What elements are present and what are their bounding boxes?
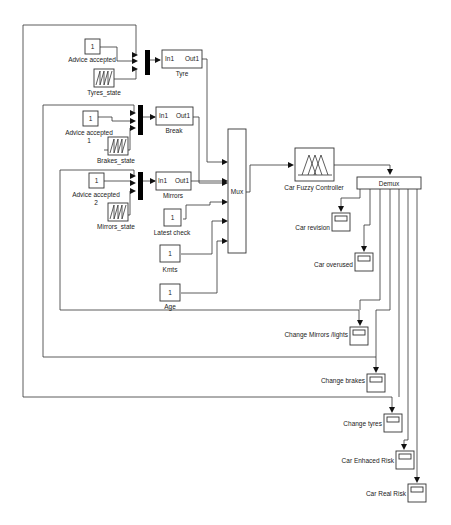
- svg-text:Out1: Out1: [175, 177, 189, 184]
- block-label: Change Mirrors /lights: [284, 331, 348, 339]
- block-label: Age: [164, 303, 176, 311]
- arrow-icon: [130, 125, 136, 131]
- constant-age[interactable]: 1 Age: [160, 284, 180, 311]
- arrow-icon: [130, 173, 136, 179]
- arrow-icon: [132, 66, 138, 72]
- svg-text:1: 1: [168, 289, 172, 296]
- signal-tyres-state[interactable]: Tyres_state: [87, 69, 121, 97]
- wire-demux-revision: [341, 189, 360, 210]
- svg-text:Out1: Out1: [185, 55, 199, 62]
- arrow-icon: [132, 58, 138, 64]
- signal-mirrors-state[interactable]: Mirrors_state: [97, 203, 135, 231]
- arrow-icon: [387, 169, 393, 175]
- arrow-icon: [373, 367, 379, 373]
- constant-kmts[interactable]: 1 Kmts: [160, 245, 180, 273]
- bus-creator-mirrors[interactable]: [138, 172, 143, 200]
- arrow-icon: [414, 477, 420, 483]
- arrow-icon: [130, 188, 136, 194]
- constant-latest-check[interactable]: 1 Latest check: [154, 209, 191, 236]
- block-label: Car Fuzzy Controller: [284, 184, 344, 192]
- demux-block[interactable]: Demux: [357, 177, 421, 189]
- arrow-icon: [357, 320, 363, 326]
- bus-creator-break[interactable]: [138, 105, 143, 135]
- svg-text:Mux: Mux: [231, 188, 244, 195]
- svg-text:Out1: Out1: [176, 112, 190, 119]
- wire-break-out: [193, 117, 226, 183]
- svg-text:1: 1: [91, 43, 95, 50]
- arrow-icon: [150, 178, 156, 184]
- arrow-icon: [132, 52, 138, 58]
- wire-demux-overused: [364, 189, 370, 250]
- svg-text:In1: In1: [158, 177, 167, 184]
- scope-change-brakes[interactable]: Change brakes: [321, 374, 385, 392]
- svg-text:2: 2: [94, 199, 98, 206]
- constant-advice-accepted-break[interactable]: 1 Advice accepted 1: [65, 111, 113, 144]
- block-label: Car Real Risk: [366, 490, 407, 497]
- arrow-icon: [222, 238, 228, 244]
- wire-kmts: [181, 221, 226, 254]
- signal-lines: [23, 25, 417, 480]
- block-label: Mirrors: [163, 192, 184, 199]
- block-label: Car overused: [314, 261, 353, 268]
- arrow-icon: [150, 114, 156, 120]
- arrow-icon: [130, 180, 136, 186]
- arrow-icon: [338, 206, 344, 212]
- block-label: Car revision: [295, 224, 330, 231]
- arrow-icon: [361, 246, 367, 252]
- wire-age: [181, 241, 226, 293]
- svg-text:1: 1: [95, 177, 99, 184]
- svg-text:1: 1: [89, 115, 93, 122]
- mux-block[interactable]: Mux: [228, 129, 246, 253]
- arrow-icon: [222, 159, 228, 165]
- block-label: Advice accepted: [72, 191, 120, 199]
- block-label: Advice accepted: [65, 129, 113, 137]
- svg-text:In1: In1: [165, 55, 174, 62]
- subsystem-break[interactable]: In1 Out1 Break: [156, 107, 193, 134]
- subsystem-tyre[interactable]: In1 Out1 Tyre: [162, 50, 202, 78]
- wire-latest-check: [183, 202, 226, 219]
- arrow-icon: [401, 444, 407, 450]
- wire-controller-out: [334, 165, 390, 172]
- subsystem-mirrors[interactable]: In1 Out1 Mirrors: [156, 172, 191, 199]
- block-label: Change tyres: [343, 420, 382, 428]
- scope-change-tyres[interactable]: Change tyres: [343, 414, 402, 432]
- svg-text:1: 1: [87, 137, 91, 144]
- block-label: Kmts: [163, 266, 179, 273]
- block-label: Advice accepted: [68, 56, 116, 64]
- svg-text:Demux: Demux: [379, 180, 400, 187]
- block-label: Latest check: [154, 229, 191, 236]
- svg-text:1: 1: [168, 250, 172, 257]
- constant-advice-accepted-mirrors[interactable]: 1 Advice accepted 2: [72, 173, 120, 206]
- arrow-icon: [222, 199, 228, 205]
- arrow-icon: [288, 162, 294, 168]
- svg-text:In1: In1: [159, 112, 168, 119]
- svg-text:1: 1: [171, 214, 175, 221]
- arrow-icon: [389, 407, 395, 413]
- scope-car-revision[interactable]: Car revision: [295, 213, 350, 231]
- bus-creator-tyre[interactable]: [145, 50, 150, 75]
- constant-advice-accepted-tyre[interactable]: 1 Advice accepted: [68, 39, 116, 64]
- arrow-icon: [130, 110, 136, 116]
- arrow-icon: [222, 218, 228, 224]
- block-label: Tyre: [176, 70, 189, 78]
- wire-tyre-out: [202, 59, 226, 162]
- wire-demux-enhanced: [404, 189, 408, 447]
- scope-car-real-risk[interactable]: Car Real Risk: [366, 484, 426, 502]
- block-label: Tyres_state: [87, 89, 121, 97]
- block-label: Brakes_state: [97, 157, 135, 165]
- arrow-icon: [130, 118, 136, 124]
- scope-change-mirrors-lights[interactable]: Change Mirrors /lights: [284, 327, 368, 345]
- block-label: Break: [166, 127, 184, 134]
- arrow-icon: [155, 57, 161, 63]
- block-label: Car Enhaced Risk: [342, 457, 395, 464]
- block-label: Change brakes: [321, 377, 366, 385]
- scope-car-overused[interactable]: Car overused: [314, 253, 373, 271]
- scope-car-enhaced-risk[interactable]: Car Enhaced Risk: [342, 451, 414, 469]
- block-label: Mirrors_state: [97, 223, 135, 231]
- fuzzy-controller-block[interactable]: Car Fuzzy Controller: [284, 148, 344, 192]
- wire-demux-brakes: [376, 189, 390, 357]
- wire-advice-break: [98, 117, 130, 121]
- simulink-canvas: 1 Advice accepted Tyres_state In1 Out1 T…: [0, 0, 451, 525]
